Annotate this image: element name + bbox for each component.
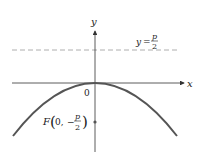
parabola-diagram: y x 0 y = p 2 F ( 0, − p 2 )	[0, 0, 199, 157]
y-axis-label: y	[90, 16, 97, 27]
focus-point	[93, 120, 96, 123]
svg-text:2: 2	[152, 42, 157, 51]
directrix-label: y = p 2	[135, 32, 158, 51]
svg-text:p: p	[152, 32, 157, 41]
svg-text:0,: 0,	[55, 117, 64, 127]
focus-label: F ( 0, − p 2 )	[42, 112, 88, 132]
x-axis-label: x	[187, 78, 193, 89]
svg-text:=: =	[143, 37, 151, 47]
svg-text:y: y	[135, 37, 142, 47]
origin-label: 0	[84, 88, 90, 98]
svg-text:−: −	[67, 117, 75, 127]
svg-text:2: 2	[75, 123, 80, 132]
svg-text:p: p	[75, 112, 80, 121]
svg-text:): )	[82, 113, 88, 131]
